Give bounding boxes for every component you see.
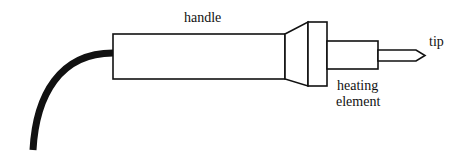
handle-flare — [285, 22, 308, 86]
heating-element-label-line1: heating — [337, 79, 378, 93]
tip — [378, 50, 425, 61]
diagram-drawing — [0, 0, 470, 156]
heating-element — [327, 41, 378, 69]
heating-element-label-line2: element — [336, 95, 380, 109]
handle-body — [113, 34, 285, 79]
collar — [308, 22, 327, 86]
handle-label: handle — [184, 11, 221, 25]
soldering-iron-diagram: handle tip heating element — [0, 0, 470, 156]
tip-label: tip — [429, 35, 444, 49]
power-cord — [33, 53, 113, 150]
